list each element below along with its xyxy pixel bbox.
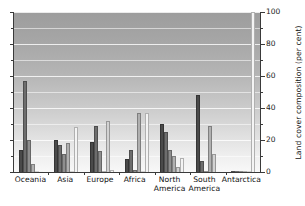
x-axis-category-label-line: Europe	[83, 175, 118, 184]
y-axis-tick-minor-left	[11, 124, 13, 125]
y-axis-tick-minor-left	[11, 92, 13, 93]
y-axis-tick-minor	[261, 60, 263, 61]
x-axis-tick	[190, 172, 191, 175]
y-axis-tick-minor-left	[11, 60, 13, 61]
x-axis-tick	[226, 172, 227, 175]
x-axis-category-label-line: America	[152, 184, 187, 193]
y-axis-tick-label: 0	[266, 168, 271, 176]
y-axis-tick-label: 20	[266, 136, 276, 144]
bar[interactable]	[129, 150, 133, 172]
bar-group	[48, 12, 83, 172]
bar[interactable]	[145, 113, 149, 172]
bar-group	[84, 12, 119, 172]
x-axis-category-label: SouthAmerica	[187, 175, 222, 193]
y-axis-tick-label: 40	[266, 104, 276, 112]
bar[interactable]	[212, 154, 216, 172]
x-axis-category-label: NorthAmerica	[152, 175, 187, 193]
bars-layer	[13, 12, 261, 172]
plot-area	[13, 12, 261, 172]
x-axis-category-label: Oceania	[13, 175, 48, 193]
x-axis-category-label-line: Asia	[48, 175, 83, 184]
x-axis-line	[13, 172, 261, 173]
y-axis-tick	[261, 172, 265, 173]
y-axis-tick	[261, 108, 265, 109]
bar[interactable]	[66, 143, 70, 172]
y-axis-tick-minor	[261, 92, 263, 93]
x-axis-category-label-line: America	[187, 184, 222, 193]
x-axis-tick	[155, 172, 156, 175]
y-axis-tick-label: 60	[266, 72, 276, 80]
y-axis-tick	[261, 140, 265, 141]
y-axis-tick-left	[10, 108, 13, 109]
x-axis-tick	[119, 172, 120, 175]
bar[interactable]	[106, 121, 110, 172]
y-axis-tick	[261, 44, 265, 45]
bar-group	[190, 12, 225, 172]
bar-group	[13, 12, 48, 172]
y-axis-tick-minor	[261, 28, 263, 29]
y-axis-tick-left	[10, 44, 13, 45]
x-axis-category-label-line: Antarctica	[222, 175, 261, 184]
bar-group	[119, 12, 154, 172]
bar-group	[226, 12, 261, 172]
y-axis-tick-minor-left	[11, 156, 13, 157]
y-axis-title: Land cover composition (per cent)	[293, 12, 304, 172]
x-axis-category-label-line: South	[187, 175, 222, 184]
y-axis-tick-minor	[261, 156, 263, 157]
y-axis-tick-minor	[261, 124, 263, 125]
x-axis-tick	[84, 172, 85, 175]
bar-group	[155, 12, 190, 172]
bar-chart: 020406080100 Land cover composition (per…	[0, 0, 305, 206]
y-axis-tick-left	[10, 12, 13, 13]
bar[interactable]	[180, 158, 184, 172]
y-axis-tick-minor-left	[11, 28, 13, 29]
x-axis-category-label-line: Oceania	[13, 175, 48, 184]
bar[interactable]	[137, 113, 141, 172]
x-axis-category-label-line: Africa	[117, 175, 152, 184]
y-axis-tick	[261, 76, 265, 77]
x-axis-category-label: Europe	[83, 175, 118, 193]
x-axis-category-label: Asia	[48, 175, 83, 193]
bar[interactable]	[74, 127, 78, 172]
y-axis-tick	[261, 12, 265, 13]
y-axis-tick-label: 80	[266, 40, 276, 48]
bar[interactable]	[251, 12, 255, 172]
x-axis-tick	[48, 172, 49, 175]
bar[interactable]	[98, 151, 102, 172]
x-axis-category-label: Antarctica	[222, 175, 261, 193]
y-axis-tick-left	[10, 76, 13, 77]
x-axis-category-labels: OceaniaAsiaEuropeAfricaNorthAmericaSouth…	[13, 175, 261, 193]
y-axis-tick-left	[10, 172, 13, 173]
x-axis-category-label: Africa	[117, 175, 152, 193]
y-axis-title-text: Land cover composition (per cent)	[294, 25, 303, 159]
x-axis-category-label-line: North	[152, 175, 187, 184]
y-axis-left-line	[13, 12, 14, 173]
y-axis-tick-left	[10, 140, 13, 141]
y-axis-tick-label: 100	[266, 8, 280, 16]
